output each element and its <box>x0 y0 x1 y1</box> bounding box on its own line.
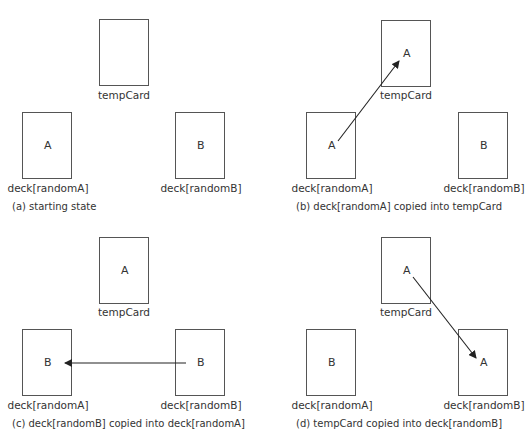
arrow-temp-to-deck-b <box>413 277 476 358</box>
arrows-layer <box>0 0 530 441</box>
arrow-deck-a-to-temp <box>338 61 399 141</box>
